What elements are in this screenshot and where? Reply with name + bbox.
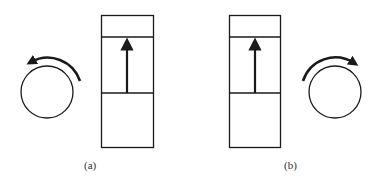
rotation-indicator-counterclockwise: [21, 58, 80, 118]
panel-b: (b): [230, 16, 362, 173]
panel-label-a: (a): [84, 159, 97, 172]
counterclockwise-arrow-icon: [31, 58, 80, 81]
piston-cylinder: [102, 16, 154, 148]
rotor-circle: [309, 66, 361, 118]
rotor-circle: [21, 66, 73, 118]
rotation-indicator-clockwise: [303, 57, 361, 118]
piston-cylinder: [230, 16, 281, 148]
panel-a: (a): [21, 16, 154, 173]
diagram-canvas: (a) (b): [0, 0, 374, 178]
panel-label-b: (b): [284, 159, 297, 172]
